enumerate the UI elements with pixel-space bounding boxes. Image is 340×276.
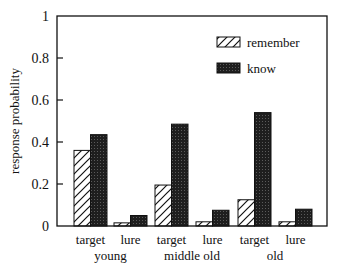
- bar-know: [213, 210, 230, 226]
- y-tick-label: 0.2: [32, 177, 50, 192]
- bar-know: [172, 124, 189, 226]
- bars: [74, 113, 312, 226]
- x-tick-label: lure: [202, 232, 222, 247]
- bar-know: [131, 216, 148, 227]
- y-tick-label: 0.8: [32, 51, 50, 66]
- y-tick-label: 1: [42, 9, 49, 24]
- legend-swatch-remember: [217, 37, 240, 47]
- bar-know: [255, 113, 272, 226]
- legend-label-know: know: [247, 61, 277, 76]
- y-tick-label: 0: [42, 219, 49, 234]
- y-axis-label: response probability: [7, 68, 22, 174]
- x-tick-label: lure: [120, 232, 140, 247]
- bar-remember: [114, 223, 131, 226]
- group-label: old: [267, 248, 284, 263]
- bar-know: [296, 209, 313, 226]
- x-tick-label: target: [76, 232, 106, 247]
- legend: rememberknow: [217, 35, 300, 76]
- bar-remember: [74, 150, 91, 226]
- group-label: young: [94, 248, 127, 263]
- bar-remember: [238, 200, 255, 226]
- legend-swatch-know: [217, 63, 240, 73]
- legend-label-remember: remember: [247, 35, 300, 50]
- axis-labels: targetluretargetluretargetlureyoungmiddl…: [76, 232, 306, 263]
- bar-remember: [155, 185, 172, 226]
- y-tick-label: 0.4: [32, 135, 50, 150]
- y-tick-label: 0.6: [32, 93, 50, 108]
- x-tick-label: target: [157, 232, 187, 247]
- bar-remember: [196, 222, 213, 226]
- x-tick-label: lure: [285, 232, 305, 247]
- bar-remember: [279, 222, 296, 226]
- bar-know: [91, 135, 108, 226]
- bar-chart: 00.20.40.60.81response probability targe…: [0, 0, 340, 276]
- x-tick-label: target: [240, 232, 270, 247]
- group-label: middle old: [164, 248, 220, 263]
